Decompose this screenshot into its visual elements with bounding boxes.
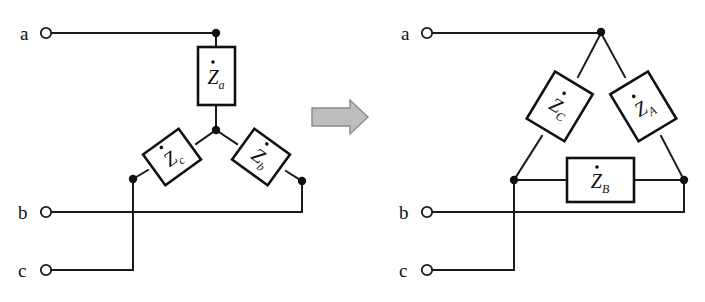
wire-apex-to-zc <box>578 33 601 77</box>
impedance-za-overdot-icon <box>211 60 215 64</box>
right-arrow-icon <box>312 100 368 134</box>
terminal-ring-b-left[interactable] <box>41 207 51 217</box>
junction-dot-corner-c <box>510 176 518 184</box>
impedance-za[interactable]: Za <box>198 47 235 105</box>
terminal-ring-a-left[interactable] <box>41 28 51 38</box>
junction-dot-b-left <box>298 177 306 185</box>
impedance-zb[interactable]: Zb <box>232 129 290 186</box>
figure-canvas: a b c <box>0 0 705 302</box>
terminal-ring-a-right[interactable] <box>422 28 432 38</box>
wye-connection: a b c <box>18 23 306 281</box>
terminal-ring-c-right[interactable] <box>422 265 432 275</box>
terminal-ring-b-right[interactable] <box>422 207 432 217</box>
wire-zc-to-corner <box>514 136 542 180</box>
impedance-zc-upper[interactable]: ZC <box>527 72 593 142</box>
impedance-za-upper[interactable]: ZA <box>610 72 676 142</box>
junction-dot-apex <box>597 28 605 36</box>
junction-dot-a-left <box>212 29 220 37</box>
wire-b-left <box>52 181 303 212</box>
terminal-label-a-left: a <box>20 23 29 44</box>
terminal-label-c-left: c <box>18 260 26 281</box>
junction-dot-corner-b <box>680 176 688 184</box>
terminal-ring-c-left[interactable] <box>41 265 51 275</box>
wire-c-right <box>433 180 515 270</box>
wire-apex-to-za <box>601 33 625 77</box>
transform-arrow <box>312 100 368 134</box>
junction-dot-star-center <box>212 126 220 134</box>
terminal-label-c-right: c <box>399 260 407 281</box>
impedance-zb-lower-overdot-icon <box>595 165 599 169</box>
junction-dot-c-left <box>129 175 137 183</box>
circuit-diagram: a b c <box>0 0 705 302</box>
terminal-label-a-right: a <box>401 23 410 44</box>
impedance-zc[interactable]: Zc <box>143 129 201 186</box>
terminal-label-b-left: b <box>18 202 28 223</box>
impedance-zb-lower[interactable]: ZB <box>567 158 634 202</box>
wire-c-left <box>52 179 134 270</box>
wire-b-right <box>433 180 685 212</box>
terminal-label-b-right: b <box>399 202 409 223</box>
delta-connection: a b c <box>399 23 688 281</box>
wire-za-to-corner <box>661 136 684 180</box>
